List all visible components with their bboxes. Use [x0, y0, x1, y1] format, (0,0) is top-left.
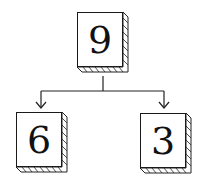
child-node-right-label: 3 — [140, 113, 186, 168]
child-node-left: 6 — [16, 112, 63, 168]
factor-tree-diagram: 9 6 3 — [0, 0, 205, 186]
child-node-left-label: 6 — [16, 112, 62, 167]
child-node-right: 3 — [140, 113, 187, 169]
root-node-label: 9 — [77, 12, 123, 67]
root-node: 9 — [77, 12, 124, 68]
